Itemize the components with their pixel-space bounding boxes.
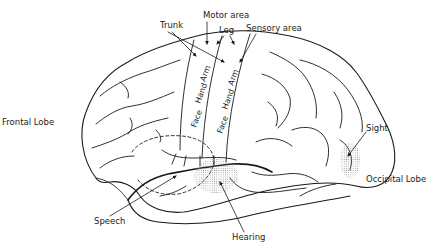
svg-text:Speech: Speech bbox=[94, 216, 125, 226]
svg-text:Leg: Leg bbox=[219, 25, 234, 35]
motor-strip-hand: Hand bbox=[193, 82, 209, 105]
label-leg: Leg bbox=[217, 25, 234, 44]
label-sensory-area: Sensory area bbox=[240, 23, 302, 62]
motor-strip-face: Face bbox=[189, 109, 204, 129]
sensory-strip-face: Face bbox=[215, 115, 230, 135]
brain-outline bbox=[82, 31, 395, 213]
label-hearing: Hearing bbox=[220, 182, 265, 242]
svg-text:Sensory area: Sensory area bbox=[246, 23, 302, 33]
label-occipital-lobe: Occipital Lobe bbox=[366, 174, 426, 184]
label-speech: Speech bbox=[94, 176, 176, 226]
motor-strip: Face Hand Arm bbox=[180, 36, 222, 158]
brain-diagram: Face Hand Arm Face Hand Arm Trunk Motor … bbox=[0, 0, 436, 249]
svg-text:Trunk: Trunk bbox=[159, 20, 183, 30]
svg-text:Hearing: Hearing bbox=[232, 232, 265, 242]
motor-strip-arm: Arm bbox=[198, 64, 212, 83]
label-trunk: Trunk bbox=[159, 20, 224, 62]
svg-text:Sight: Sight bbox=[366, 123, 389, 133]
sight-area bbox=[340, 142, 360, 178]
label-frontal-lobe: Frontal Lobe bbox=[2, 117, 54, 127]
svg-text:Motor area: Motor area bbox=[203, 10, 249, 20]
hearing-area bbox=[194, 159, 238, 193]
